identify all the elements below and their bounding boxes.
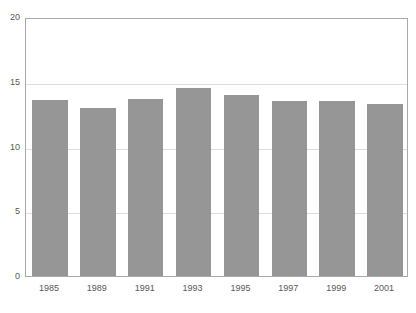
x-axis-tick-label: 1985 — [25, 283, 73, 293]
cropped-title-fragment — [8, 0, 188, 5]
bar — [80, 108, 115, 276]
y-axis-tick-label: 10 — [10, 143, 20, 152]
bar-chart: 05101520 1985198919911993199519971999200… — [0, 0, 416, 313]
x-axis-tick-label: 1989 — [73, 283, 121, 293]
bar — [32, 100, 67, 276]
x-axis-tick-label: 1993 — [169, 283, 217, 293]
x-axis-tick-label: 1995 — [217, 283, 265, 293]
x-axis-tick-label: 1997 — [264, 283, 312, 293]
x-axis: 19851989199119931995199719992001 — [25, 283, 408, 303]
x-axis-tick-label: 1991 — [121, 283, 169, 293]
bar — [176, 88, 211, 276]
y-axis-tick-label: 0 — [15, 272, 20, 281]
y-axis-tick-label: 5 — [15, 207, 20, 216]
x-axis-tick-label: 1999 — [312, 283, 360, 293]
y-axis-tick-label: 20 — [10, 13, 20, 22]
plot-area — [25, 18, 408, 277]
y-axis-tick-label: 15 — [10, 78, 20, 87]
y-axis: 05101520 — [0, 0, 24, 313]
bar — [319, 101, 354, 276]
bar — [272, 101, 307, 276]
bar — [224, 95, 259, 276]
bar-series — [26, 19, 407, 276]
bar — [367, 104, 402, 276]
bar — [128, 99, 163, 276]
x-axis-tick-label: 2001 — [360, 283, 408, 293]
